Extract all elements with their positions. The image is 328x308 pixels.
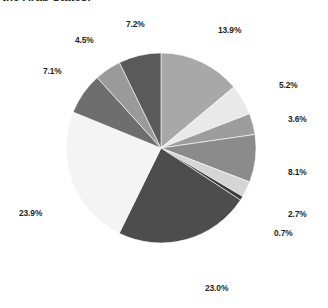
pie-slice-label: 8.1% xyxy=(288,167,307,177)
pie-slice-label: 5.2% xyxy=(279,80,298,90)
pie-slice-label: 2.7% xyxy=(288,209,307,219)
pie-slice-label: 13.9% xyxy=(218,25,241,35)
pie-slice-group xyxy=(66,53,256,243)
pie-slice-label: 7.2% xyxy=(126,19,145,29)
pie-chart-canvas xyxy=(0,0,328,308)
pie-slice-label: 3.6% xyxy=(288,114,307,124)
pie-slice-label: 23.9% xyxy=(19,208,42,218)
pie-slice-label: 23.0% xyxy=(205,283,228,293)
pie-chart-svg xyxy=(0,0,328,308)
pie-slice-label: 7.1% xyxy=(43,66,62,76)
pie-slice-label: 4.5% xyxy=(75,35,94,45)
pie-chart-figure: the Arab States. 13.9%5.2%3.6%8.1%2.7%0.… xyxy=(0,0,328,308)
pie-slice-label: 0.7% xyxy=(274,228,293,238)
